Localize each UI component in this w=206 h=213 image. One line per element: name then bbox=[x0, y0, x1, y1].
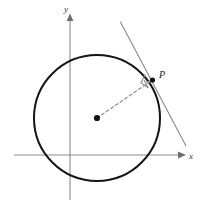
circle-center-dot bbox=[94, 115, 100, 121]
geometry-diagram: x y P bbox=[0, 0, 206, 213]
figure-container: x y P bbox=[0, 0, 206, 213]
tangent-point-label: P bbox=[158, 69, 165, 80]
y-axis-label: y bbox=[63, 4, 68, 14]
x-axis-label: x bbox=[188, 151, 193, 161]
tangent-point-dot bbox=[150, 77, 155, 82]
